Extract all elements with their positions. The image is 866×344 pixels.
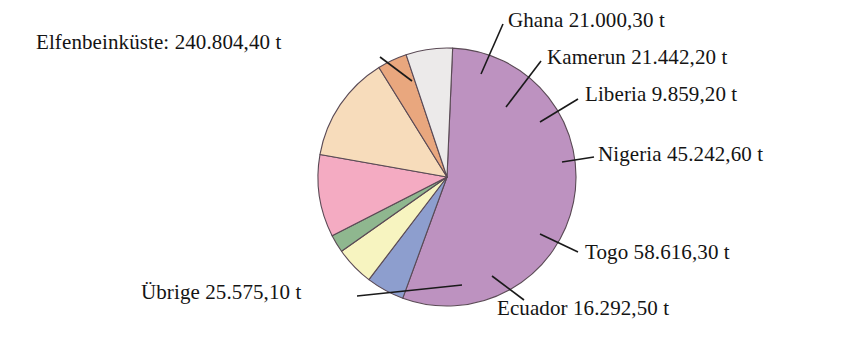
pie-label-liberia: Liberia 9.859,20 t [585,83,737,105]
pie-label-nigeria: Nigeria 45.242,60 t [598,143,763,165]
pie-label-elfenbeinkueste: Elfenbeinküste: 240.804,40 t [36,31,281,53]
pie-label-togo: Togo 58.616,30 t [585,241,730,263]
pie-label-ghana: Ghana 21.000,30 t [508,9,665,31]
pie-label-uebrige: Übrige 25.575,10 t [141,281,301,303]
pie-label-ecuador: Ecuador 16.292,50 t [497,297,669,319]
pie-chart-figure: Elfenbeinküste: 240.804,40 t Ghana 21.00… [0,0,866,344]
pie-slice-group [318,48,576,306]
pie-label-kamerun: Kamerun 21.442,20 t [547,46,727,68]
